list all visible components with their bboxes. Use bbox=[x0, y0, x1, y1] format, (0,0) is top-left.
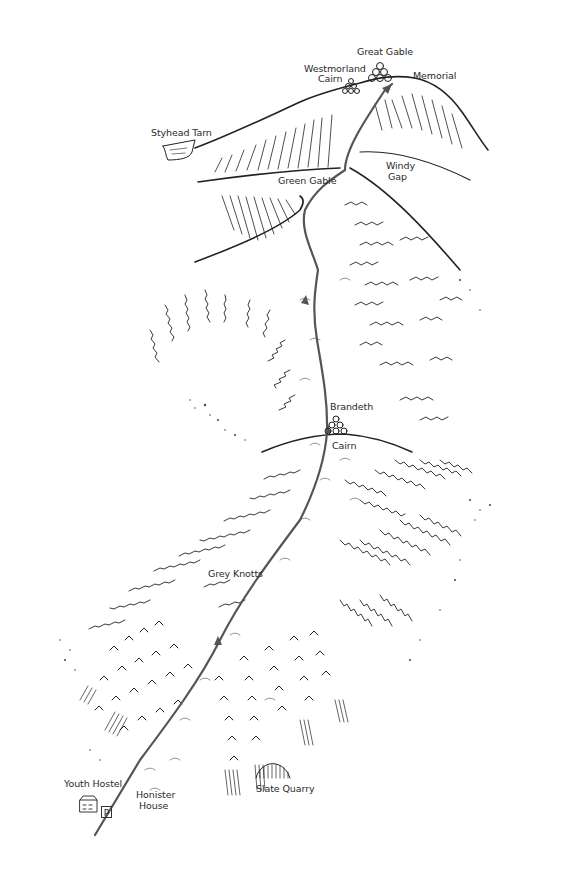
label-youth-hostel: Youth Hostel bbox=[64, 778, 122, 789]
crag-hatching-upper bbox=[215, 94, 462, 172]
cairn-westmorland bbox=[343, 79, 360, 94]
label-westmorland-cairn: Cairn bbox=[318, 73, 342, 84]
label-styhead-tarn: Styhead Tarn bbox=[151, 127, 212, 138]
styhead-tarn bbox=[163, 140, 195, 160]
route-map: Great Gable Memorial Westmorland Cairn S… bbox=[0, 0, 567, 878]
slate-quarry-icon bbox=[256, 764, 290, 778]
crag-hatching-green-gable bbox=[222, 196, 295, 240]
windy-gap-upper bbox=[360, 152, 470, 180]
scree-dots bbox=[59, 279, 491, 761]
scree-grey-knotts bbox=[89, 470, 300, 629]
green-gable-crag bbox=[195, 196, 303, 262]
label-great-gable: Great Gable bbox=[357, 46, 413, 57]
label-windy: Windy bbox=[386, 160, 415, 171]
label-honister: Honister bbox=[136, 789, 175, 800]
scree-lower-right bbox=[340, 460, 472, 626]
label-green-gable: Green Gable bbox=[278, 175, 336, 186]
scree-right bbox=[345, 202, 462, 420]
route-arrows bbox=[214, 84, 392, 645]
crags-lower bbox=[95, 621, 330, 760]
map-drawing bbox=[0, 0, 567, 878]
youth-hostel-icon bbox=[80, 796, 97, 812]
walking-route bbox=[95, 84, 392, 835]
label-brandreth: Brandeth bbox=[330, 401, 373, 412]
label-honister-house: House bbox=[139, 800, 168, 811]
parking-icon: P bbox=[101, 806, 112, 818]
label-memorial: Memorial bbox=[413, 70, 456, 81]
grass-tufts bbox=[145, 278, 360, 790]
scree-left-fan bbox=[150, 290, 295, 410]
label-slate-quarry: Slate Quarry bbox=[256, 783, 314, 794]
label-gap: Gap bbox=[388, 171, 407, 182]
label-grey-knotts: Grey Knotts bbox=[208, 568, 263, 579]
windy-gap-line bbox=[350, 168, 460, 270]
label-brandreth-cairn: Cairn bbox=[332, 440, 356, 451]
